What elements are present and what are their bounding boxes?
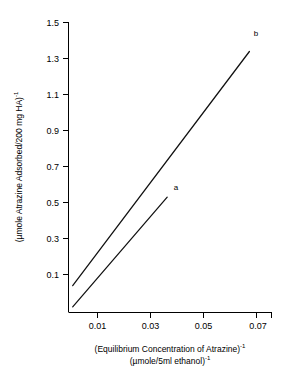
y-axis-title-text: (µmole Atrazine Adsorbed/200 mg HA) xyxy=(14,97,24,242)
x-tick-label-0.01: 0.01 xyxy=(89,321,107,331)
y-tick-label-0.9: 0.9 xyxy=(46,126,59,136)
y-axis-ticks xyxy=(63,23,69,275)
series-line-b xyxy=(73,52,250,286)
y-tick-label-0.5: 0.5 xyxy=(46,198,59,208)
x-axis-ticks xyxy=(98,313,272,319)
x-axis-title-line1: (Equilibrium Concentration of Atrazine)-… xyxy=(95,343,247,354)
figure-panel: 1.5 1.3 1.1 0.9 0.7 0.5 0.3 0.1 0.01 0.0… xyxy=(0,0,297,371)
x-axis-title-line1-text: (Equilibrium Concentration of Atrazine) xyxy=(95,344,241,354)
y-tick-label-0.7: 0.7 xyxy=(46,162,59,172)
x-axis-title-line2-text: (µmole/5ml ethanol) xyxy=(130,356,205,366)
y-axis-title: (µmole Atrazine Adsorbed/200 mg HA)-1 xyxy=(13,91,24,242)
y-axis-title-exponent: -1 xyxy=(13,91,19,97)
x-tick-label-0.07: 0.07 xyxy=(249,321,267,331)
series-line-a xyxy=(73,197,168,307)
series-label-a: a xyxy=(174,183,179,192)
svg-text:(µmole Atrazine Adsorbed/200 m: (µmole Atrazine Adsorbed/200 mg HA)-1 xyxy=(13,91,24,242)
y-tick-label-0.1: 0.1 xyxy=(46,270,59,280)
chart-canvas: 1.5 1.3 1.1 0.9 0.7 0.5 0.3 0.1 0.01 0.0… xyxy=(0,0,297,371)
x-axis-title-line2: (µmole/5ml ethanol)-1 xyxy=(130,355,211,366)
y-tick-label-0.3: 0.3 xyxy=(46,234,59,244)
series-label-b: b xyxy=(254,29,259,38)
x-axis-title-line2-exponent: -1 xyxy=(205,355,211,361)
y-tick-label-1.3: 1.3 xyxy=(46,54,59,64)
x-axis-title-line1-exponent: -1 xyxy=(240,343,246,349)
x-tick-label-0.05: 0.05 xyxy=(195,321,213,331)
y-tick-label-1.1: 1.1 xyxy=(46,90,59,100)
y-tick-label-1.5: 1.5 xyxy=(46,18,59,28)
x-tick-label-0.03: 0.03 xyxy=(142,321,160,331)
